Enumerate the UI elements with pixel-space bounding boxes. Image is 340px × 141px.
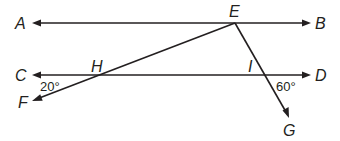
line-ef xyxy=(32,23,235,101)
label-f: F xyxy=(18,94,29,111)
label-d: D xyxy=(315,67,327,84)
label-e: E xyxy=(229,3,240,20)
label-a: A xyxy=(14,15,26,32)
arrowhead-c-icon xyxy=(32,72,41,79)
arrowhead-b-icon xyxy=(302,20,311,27)
line-eg xyxy=(235,23,289,118)
label-b: B xyxy=(315,15,326,32)
line-cd xyxy=(32,72,311,79)
label-c: C xyxy=(15,67,27,84)
arrowhead-f-icon xyxy=(32,94,43,101)
arrowhead-a-icon xyxy=(32,20,41,27)
label-i: I xyxy=(248,58,253,75)
geometry-diagram: A B E C D H I F G 20° 60° xyxy=(0,0,340,141)
arrowhead-d-icon xyxy=(302,72,311,79)
label-h: H xyxy=(91,58,103,75)
label-g: G xyxy=(283,122,295,139)
line-ab xyxy=(32,20,311,27)
angle-label-20: 20° xyxy=(40,79,60,94)
angle-label-60: 60° xyxy=(276,79,296,94)
